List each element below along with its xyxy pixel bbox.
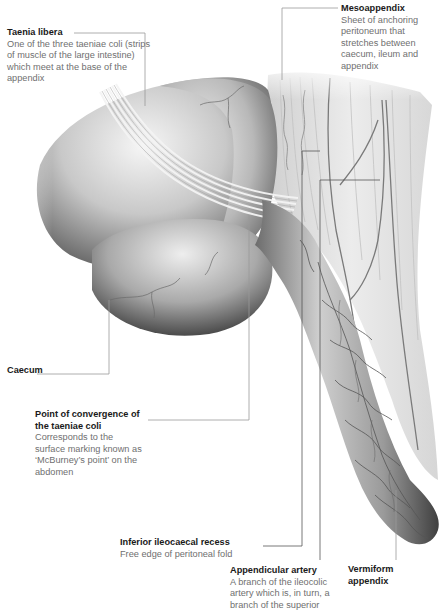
label-title: Caecum [7, 365, 43, 377]
label-title: Appendicular artery [230, 565, 345, 577]
label-mesoappendix: Mesoappendix Sheet of anchoring peritone… [341, 3, 441, 73]
label-caecum: Caecum [7, 365, 43, 377]
label-point-of-convergence: Point of convergence of the taeniae coli… [35, 409, 145, 479]
label-taenia-libera: Taenia libera One of the three taeniae c… [7, 27, 152, 85]
label-description: One of the three taeniae coli (strips of… [7, 39, 152, 85]
label-title: Mesoappendix [341, 3, 441, 15]
label-vermiform-appendix: Vermiform appendix [348, 564, 408, 587]
label-description: Corresponds to the surface marking known… [35, 432, 145, 478]
label-inferior-ileocaecal-recess: Inferior ileocaecal recess Free edge of … [120, 537, 280, 560]
label-description: Sheet of anchoring peritoneum that stret… [341, 15, 441, 73]
label-title: Inferior ileocaecal recess [120, 537, 280, 549]
label-description: A branch of the ileocolic artery which i… [230, 577, 345, 611]
label-title: Taenia libera [7, 27, 152, 39]
caecum-body [0, 70, 298, 336]
label-description: Free edge of peritoneal fold [120, 549, 280, 561]
label-appendicular-artery: Appendicular artery A branch of the ileo… [230, 565, 345, 611]
label-title: Point of convergence of the taeniae coli [35, 409, 145, 432]
label-title: Vermiform appendix [348, 564, 408, 587]
